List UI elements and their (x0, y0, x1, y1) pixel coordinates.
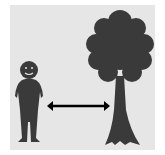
distance-arrow-icon (47, 101, 110, 111)
person-icon (15, 61, 43, 142)
diagram-canvas (0, 0, 165, 155)
tree-icon (86, 10, 154, 145)
